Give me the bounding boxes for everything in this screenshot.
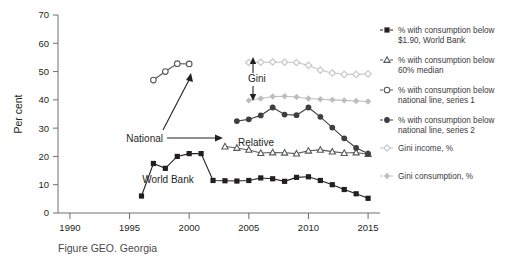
y-axis-title: Per cent: [12, 94, 24, 133]
data-point-marker: [222, 178, 227, 183]
data-point-marker: [234, 118, 240, 124]
data-point-marker: [341, 97, 347, 103]
legend-label-line1: Gini income, %: [398, 144, 453, 153]
data-point-marker: [329, 148, 335, 154]
series-2: [151, 61, 192, 83]
data-point-marker: [365, 98, 371, 104]
data-point-marker: [269, 93, 275, 99]
data-point-marker: [341, 135, 347, 141]
legend-item-4[interactable]: Gini income, %: [380, 144, 453, 153]
data-point-marker: [270, 149, 276, 155]
y-tick-label: 60: [38, 38, 49, 49]
x-tick-label: 2000: [179, 222, 200, 233]
annotation-relative-label: Relative: [238, 137, 275, 148]
series-3: [234, 105, 371, 157]
data-point-marker: [234, 178, 239, 183]
x-tick-label: 2010: [298, 222, 319, 233]
data-point-marker: [294, 112, 300, 118]
data-point-marker: [258, 175, 263, 180]
x-tick-label: 2015: [358, 222, 379, 233]
data-point-marker: [294, 175, 299, 180]
data-point-marker: [365, 196, 370, 201]
data-point-marker: [305, 148, 311, 154]
y-tick-label: 20: [38, 151, 49, 162]
data-point-marker: [330, 182, 335, 187]
data-point-marker: [163, 69, 169, 75]
figure-container: 010203040506070 199019952000200520102015…: [0, 0, 523, 263]
data-point-marker: [329, 125, 335, 131]
data-point-marker: [270, 176, 275, 181]
data-point-marker: [282, 112, 288, 118]
data-point-marker: [174, 61, 180, 67]
data-point-marker: [353, 71, 359, 77]
x-axis: 199019952000200520102015: [58, 213, 380, 233]
data-point-marker: [246, 97, 252, 103]
data-point-marker: [258, 150, 264, 156]
legend-label-line1: % with consumption below: [398, 86, 495, 95]
data-point-marker: [187, 151, 192, 156]
legend-item-2[interactable]: % with consumption belownational line, s…: [380, 86, 495, 105]
data-point-marker: [246, 178, 251, 183]
chart-svg: 010203040506070 199019952000200520102015…: [0, 0, 523, 263]
data-point-marker: [199, 151, 204, 156]
data-point-marker: [305, 62, 311, 68]
data-point-marker: [384, 87, 390, 93]
x-tick-label: 1990: [59, 222, 80, 233]
data-point-marker: [210, 178, 215, 183]
series-line: [153, 64, 189, 80]
data-point-marker: [139, 193, 144, 198]
figure-caption: Figure GEO. Georgia: [58, 242, 157, 254]
legend-item-1[interactable]: % with consumption below60% median: [380, 56, 495, 75]
data-point-marker: [246, 116, 252, 122]
data-point-marker: [175, 154, 180, 159]
data-point-marker: [329, 70, 335, 76]
data-point-marker: [282, 179, 287, 184]
data-point-marker: [151, 161, 156, 166]
data-point-marker: [317, 114, 323, 120]
data-point-marker: [306, 105, 312, 111]
legend-label-line1: % with consumption below: [398, 116, 495, 125]
data-point-marker: [353, 145, 359, 151]
data-point-marker: [151, 77, 157, 83]
data-point-marker: [258, 113, 264, 119]
legend-label-line1: Gini consumption, %: [398, 172, 473, 181]
annotation-world-bank-label: World Bank: [142, 174, 195, 185]
data-point-marker: [317, 147, 323, 153]
data-point-marker: [258, 95, 264, 101]
data-point-marker: [384, 117, 390, 123]
legend-label-line2: national line, series 2: [398, 126, 475, 135]
annotation-national: National: [126, 73, 223, 144]
y-tick-label: 70: [38, 9, 49, 20]
legend-item-5[interactable]: Gini consumption, %: [380, 172, 473, 181]
series-5: [246, 93, 372, 105]
y-tick-label: 40: [38, 94, 49, 105]
y-tick-label: 30: [38, 123, 49, 134]
data-point-marker: [306, 174, 311, 179]
data-point-marker: [384, 173, 390, 179]
y-tick-label: 50: [38, 66, 49, 77]
data-point-marker: [353, 98, 359, 104]
legend-label-line2: national line, series 1: [398, 96, 475, 105]
data-point-marker: [281, 93, 287, 99]
data-point-marker: [293, 94, 299, 100]
data-point-marker: [384, 27, 389, 32]
data-point-marker: [365, 151, 371, 157]
data-point-marker: [269, 59, 275, 65]
data-point-marker: [222, 143, 228, 149]
legend-item-0[interactable]: % with consumption below$1.90, World Ban…: [380, 26, 495, 45]
data-point-marker: [384, 145, 390, 151]
annotation-gini-label: Gini: [248, 73, 266, 84]
data-point-marker: [258, 59, 264, 65]
legend-label-line1: % with consumption below: [398, 26, 495, 35]
x-tick-label: 2005: [238, 222, 259, 233]
data-point-marker: [317, 96, 323, 102]
x-tick-label: 1995: [119, 222, 140, 233]
data-point-marker: [305, 95, 311, 101]
legend-label-line2: $1.90, World Bank: [398, 36, 466, 45]
data-point-marker: [317, 67, 323, 73]
data-point-marker: [365, 71, 371, 77]
legend-label-line1: % with consumption below: [398, 56, 495, 65]
data-point-marker: [318, 178, 323, 183]
data-point-marker: [186, 61, 192, 67]
legend-item-3[interactable]: % with consumption belownational line, s…: [380, 116, 495, 135]
